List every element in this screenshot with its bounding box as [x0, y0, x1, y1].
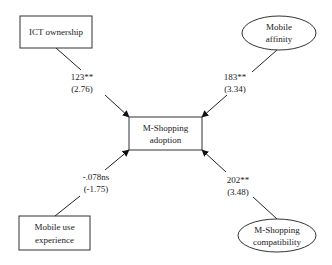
path-experience-to-adoption: -.078ns (-1.75)	[55, 150, 129, 216]
node-experience-line2: experience	[35, 235, 74, 245]
path-compat-coef: 202**	[227, 175, 250, 185]
path-affinity-to-adoption: 183** (3.34)	[202, 50, 277, 117]
node-affinity-line2: affinity	[266, 34, 293, 44]
path-affinity-t: (3.34)	[224, 84, 246, 94]
path-ict-t: (2.76)	[71, 84, 93, 94]
node-mobile-use-experience: Mobile use experience	[19, 216, 90, 250]
node-compat-line2: compatibility	[253, 237, 301, 247]
center-line1: M-Shopping	[143, 123, 189, 133]
path-ict-to-adoption: 123** (2.76)	[56, 48, 129, 117]
node-m-shopping-compatibility: M-Shopping compatibility	[238, 219, 316, 252]
path-experience-t: (-1.75)	[84, 184, 109, 194]
node-affinity-line1: Mobile	[266, 22, 292, 32]
arrow-icon	[105, 95, 129, 117]
path-compat-to-adoption: 202** (3.48)	[202, 150, 277, 219]
node-ict-ownership: ICT ownership	[20, 16, 92, 48]
arrow-icon	[202, 150, 226, 172]
path-ict-coef: 123**	[71, 72, 94, 82]
path-affinity-coef: 183**	[224, 72, 247, 82]
arrow-icon	[202, 95, 227, 117]
path-compat-t: (3.48)	[227, 187, 249, 197]
node-m-shopping-adoption: M-Shopping adoption	[129, 117, 202, 150]
node-ict-label: ICT ownership	[29, 27, 84, 37]
node-experience-line1: Mobile use	[34, 222, 74, 232]
path-diagram: ICT ownership Mobile affinity M-Shopping…	[0, 0, 332, 265]
path-experience-coef: -.078ns	[83, 172, 110, 182]
node-mobile-affinity: Mobile affinity	[242, 16, 316, 50]
node-compat-line1: M-Shopping	[254, 225, 300, 235]
center-line2: adoption	[150, 135, 182, 145]
arrow-icon	[105, 150, 129, 170]
